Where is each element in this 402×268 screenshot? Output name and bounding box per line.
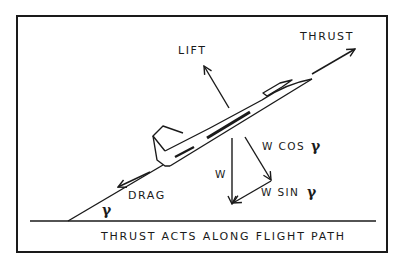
caption: THRUST ACTS ALONG FLIGHT PATH bbox=[100, 230, 346, 243]
w-sin-gamma-symbol: γ bbox=[307, 184, 317, 200]
climb-forces-diagram: THRUST LIFT DRAG W W COS γ W SIN γ γ THR… bbox=[0, 0, 402, 268]
drag-arrow bbox=[118, 172, 150, 187]
weight-label: W bbox=[215, 168, 227, 180]
thrust-label: THRUST bbox=[299, 30, 354, 43]
w-cos-gamma-symbol: γ bbox=[311, 138, 321, 154]
w-sin-label: W SIN bbox=[261, 186, 299, 198]
lift-arrow bbox=[204, 66, 229, 108]
climb-angle-gamma: γ bbox=[102, 202, 112, 218]
drag-label: DRAG bbox=[128, 189, 166, 202]
thrust-arrow bbox=[312, 49, 355, 74]
lift-label: LIFT bbox=[178, 44, 207, 57]
w-cos-label: W COS bbox=[262, 140, 305, 152]
